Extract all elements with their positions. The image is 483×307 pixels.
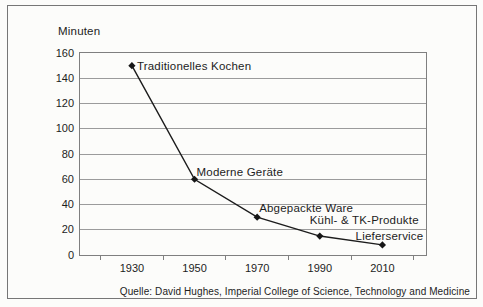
- data-point-marker: [128, 62, 135, 69]
- y-axis-tick-label: 80: [34, 149, 74, 160]
- x-axis-tick: [100, 256, 101, 260]
- x-axis-tick: [225, 256, 226, 260]
- x-axis-tick: [288, 256, 289, 260]
- y-axis-tick-label: 40: [34, 199, 74, 210]
- y-axis-title: Minuten: [58, 25, 100, 37]
- data-point-label: Lieferservice: [356, 230, 424, 242]
- y-axis-tick-label: 20: [34, 224, 74, 235]
- y-axis-tick-label: 120: [34, 98, 74, 109]
- data-point-marker: [316, 232, 323, 239]
- x-axis-tick-label: 1970: [245, 262, 269, 274]
- scanned-chart-page: { "chart_data": { "type": "line", "ylabe…: [0, 0, 483, 307]
- plot-area: Traditionelles KochenModerne GeräteAbgep…: [79, 52, 427, 256]
- y-axis-tick-label: 60: [34, 174, 74, 185]
- x-axis-tick: [163, 256, 164, 260]
- y-axis-tick-label: 0: [34, 250, 74, 261]
- y-axis-tick-label: 100: [34, 123, 74, 134]
- data-point-label: Traditionelles Kochen: [137, 60, 251, 72]
- x-axis-tick-labels: 19301950197019902010: [80, 262, 426, 276]
- data-point-label: Abgepackte Ware: [259, 202, 353, 214]
- data-point-marker: [254, 214, 261, 221]
- data-point-marker: [379, 241, 386, 248]
- x-axis-tick-label: 1950: [182, 262, 206, 274]
- source-note: Quelle: David Hughes, Imperial College o…: [120, 286, 470, 297]
- x-axis-tick-label: 2010: [370, 262, 394, 274]
- x-axis-tick: [413, 256, 414, 260]
- x-axis-tick: [351, 256, 352, 260]
- data-point-label: Moderne Geräte: [197, 166, 284, 178]
- x-axis-ticks: [80, 256, 426, 261]
- y-axis-tick-label: 140: [34, 73, 74, 84]
- x-axis-tick-label: 1930: [120, 262, 144, 274]
- x-axis-tick-label: 1990: [308, 262, 332, 274]
- y-axis-tick-label: 160: [34, 48, 74, 59]
- data-point-label: Kühl- & TK-Produkte: [310, 214, 419, 226]
